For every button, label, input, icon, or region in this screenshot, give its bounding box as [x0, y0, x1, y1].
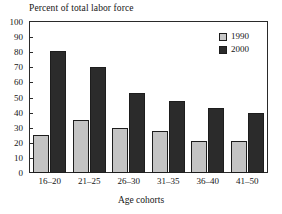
chart-title: Percent of total labor force — [29, 2, 134, 14]
y-tick-label: 80 — [14, 48, 23, 57]
legend-swatch-icon — [219, 33, 227, 41]
y-tick-label: 100 — [10, 18, 24, 27]
bar-2000-16–20 — [50, 51, 66, 173]
x-axis: 16–2021–2526–3031–3536–4041–50 — [30, 176, 267, 190]
y-tick-label: 20 — [14, 138, 23, 147]
bar-2000-41–50 — [248, 113, 264, 173]
y-tick-label: 10 — [14, 153, 23, 162]
x-tick-label: 36–40 — [197, 176, 220, 187]
y-tick-mark — [29, 128, 33, 129]
legend-swatch-icon — [219, 46, 227, 54]
bar-1990-16–20 — [33, 135, 49, 173]
x-axis-title: Age cohorts — [0, 194, 282, 206]
bar-group — [30, 22, 70, 173]
bar-group — [109, 22, 149, 173]
y-tick-mark — [29, 82, 33, 83]
x-tick-label: 16–20 — [39, 176, 62, 187]
x-tick-label: 31–35 — [157, 176, 180, 187]
y-tick-mark — [29, 37, 33, 38]
y-tick-mark — [29, 143, 33, 144]
bar-1990-21–25 — [73, 120, 89, 173]
bar-1990-31–35 — [152, 131, 168, 173]
legend-item-2000: 2000 — [219, 44, 265, 55]
x-tick-label: 41–50 — [236, 176, 259, 187]
legend-label: 2000 — [231, 45, 249, 54]
y-tick-label: 30 — [14, 123, 23, 132]
bar-2000-31–35 — [169, 101, 185, 173]
bar-2000-21–25 — [90, 67, 106, 173]
y-tick-mark — [29, 52, 33, 53]
bar-group — [149, 22, 189, 173]
legend: 19902000 — [219, 31, 265, 57]
y-tick-label: 50 — [14, 93, 23, 102]
y-tick-label: 40 — [14, 108, 23, 117]
y-tick-label: 0 — [19, 169, 24, 178]
y-tick-mark — [29, 113, 33, 114]
y-tick-mark — [29, 67, 33, 68]
y-axis: 0102030405060708090100 — [0, 21, 26, 173]
y-tick-label: 90 — [14, 33, 23, 42]
bar-1990-26–30 — [112, 128, 128, 173]
x-tick-label: 26–30 — [118, 176, 141, 187]
bar-1990-41–50 — [231, 141, 247, 173]
bar-2000-36–40 — [208, 108, 224, 173]
bar-1990-36–40 — [191, 141, 207, 173]
y-tick-mark — [29, 158, 33, 159]
y-tick-mark — [29, 98, 33, 99]
legend-item-1990: 1990 — [219, 31, 265, 42]
bar-2000-26–30 — [129, 93, 145, 173]
y-tick-label: 70 — [14, 63, 23, 72]
legend-label: 1990 — [231, 32, 249, 41]
bar-chart: Percent of total labor force 01020304050… — [0, 0, 282, 214]
bar-group — [70, 22, 110, 173]
x-tick-label: 21–25 — [78, 176, 101, 187]
y-tick-label: 60 — [14, 78, 23, 87]
